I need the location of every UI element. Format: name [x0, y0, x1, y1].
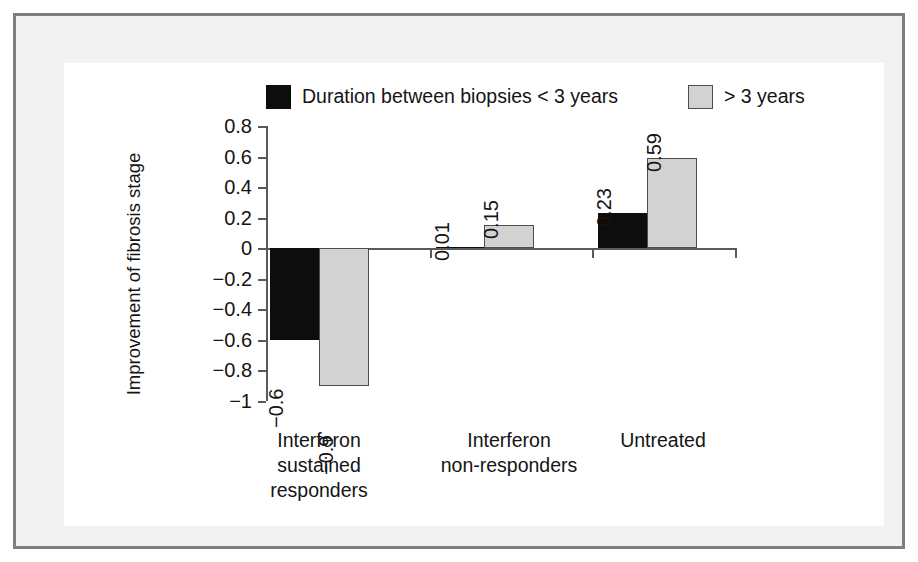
y-tick-label-0: 0 — [182, 238, 252, 258]
plot-area: Improvement of fibrosis stage 0.8 — [64, 63, 884, 526]
y-tick-label-0p4: 0.4 — [182, 177, 252, 197]
figure-root: Duration between biopsies < 3 years > 3 … — [0, 0, 918, 562]
y-tick-label-0p6: 0.6 — [182, 147, 252, 167]
value-label-interferon-non-responders-gt3: 0.15 — [481, 200, 501, 239]
figure-outer-frame: Duration between biopsies < 3 years > 3 … — [13, 13, 905, 549]
value-label-untreated-lt3: 0.23 — [594, 188, 614, 227]
y-tick-label-neg0p2: −0.2 — [182, 269, 252, 289]
y-tick-0p2 — [258, 218, 266, 220]
y-tick-label-0p2: 0.2 — [182, 208, 252, 228]
y-tick-label-neg1: −1 — [182, 391, 252, 411]
x-tick-end — [735, 248, 737, 258]
y-tick-neg0p8 — [258, 370, 266, 372]
y-tick-neg0p6 — [258, 340, 266, 342]
value-label-untreated-gt3: 0.59 — [644, 133, 664, 172]
y-axis-spine — [266, 126, 268, 401]
category-label-line: Untreated — [553, 428, 773, 453]
y-tick-neg0p4 — [258, 309, 266, 311]
bar-interferon-sustained-responders-lt3 — [270, 248, 319, 340]
x-tick-separator-2 — [592, 248, 594, 258]
chart-panel: Duration between biopsies < 3 years > 3 … — [64, 63, 884, 526]
y-tick-label-neg0p4: −0.4 — [182, 299, 252, 319]
value-label-interferon-non-responders-lt3: 0.01 — [432, 222, 452, 261]
category-label-line: non-responders — [399, 453, 619, 478]
y-axis-title: Improvement of fibrosis stage — [123, 134, 145, 414]
y-tick-neg0p2 — [258, 279, 266, 281]
y-tick-0p6 — [258, 157, 266, 159]
category-label-interferon-sustained-responders: Interferon sustained responders — [209, 428, 429, 502]
value-label-interferon-sustained-responders-lt3: −0.6 — [266, 389, 286, 428]
y-tick-label-0p8: 0.8 — [182, 116, 252, 136]
category-label-line: sustained — [209, 453, 429, 478]
y-tick-0 — [258, 248, 266, 250]
y-tick-label-neg0p8: −0.8 — [182, 360, 252, 380]
category-label-line: responders — [209, 478, 429, 503]
bar-interferon-sustained-responders-gt3 — [319, 248, 369, 386]
category-label-untreated: Untreated — [553, 428, 773, 453]
y-tick-label-neg0p6: −0.6 — [182, 330, 252, 350]
y-tick-0p4 — [258, 187, 266, 189]
y-tick-0p8 — [258, 126, 266, 128]
category-label-line: Interferon — [209, 428, 429, 453]
